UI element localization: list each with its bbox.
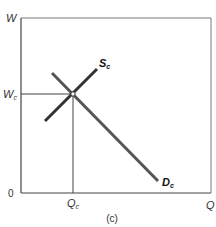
diagram-canvas: W Q 0 Wc Qc Sc Dc (c) [0, 0, 216, 227]
equilibrium-wage-label: Wc [3, 88, 17, 101]
equilibrium-point [71, 92, 75, 96]
demand-curve-label: Dc [162, 176, 174, 189]
demand-curve [52, 73, 158, 181]
equilibrium-quantity-label: Qc [67, 197, 80, 210]
y-axis-label: W [6, 12, 18, 24]
origin-label: 0 [8, 188, 14, 199]
panel-label: (c) [106, 213, 118, 224]
x-axis-label: Q [206, 199, 215, 211]
supply-curve-label: Sc [99, 57, 110, 70]
